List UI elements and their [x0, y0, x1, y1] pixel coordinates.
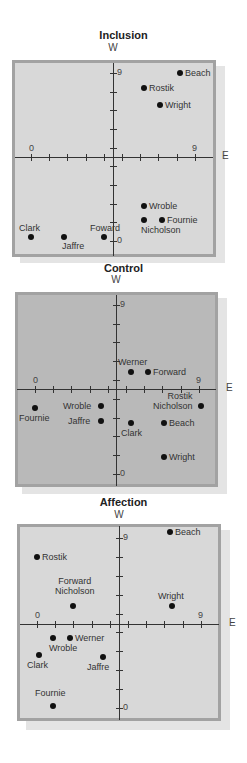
x-tick: [104, 154, 105, 161]
data-point-label: Beach: [185, 68, 211, 78]
x-tick: [183, 621, 184, 628]
y-tick: [110, 110, 117, 111]
x-tick: [126, 386, 127, 393]
data-point: [28, 234, 34, 240]
y-tick: [116, 557, 123, 558]
data-point-label: Jaffre: [62, 241, 84, 251]
data-point: [141, 217, 147, 223]
axis-label-w-control: W: [106, 274, 126, 285]
data-point-label: Forward: [153, 367, 186, 377]
data-point-label: Werner: [75, 633, 104, 643]
x-tick: [199, 386, 200, 393]
y-tick-label-0: 0: [120, 468, 125, 478]
y-tick: [113, 436, 120, 437]
x-tick: [144, 386, 145, 393]
y-tick: [116, 595, 123, 596]
x-tick: [73, 621, 74, 628]
data-point-label: Wright: [165, 100, 191, 110]
data-point-label: Clark: [121, 428, 142, 438]
x-tick: [31, 154, 32, 161]
x-tick: [108, 386, 109, 393]
x-tick: [146, 621, 147, 628]
y-tick: [110, 185, 117, 186]
y-tick: [110, 129, 117, 130]
y-tick: [116, 708, 123, 709]
data-point: [34, 554, 40, 560]
y-tick: [110, 92, 117, 93]
data-point: [50, 635, 56, 641]
data-point-label: Werner: [118, 357, 147, 367]
data-point-label: Jaffre: [68, 416, 90, 426]
x-tick: [164, 621, 165, 628]
x-tick: [49, 154, 50, 161]
data-point: [32, 405, 38, 411]
data-point-label: ForwardNicholson: [55, 576, 95, 596]
data-point: [61, 234, 67, 240]
y-tick: [116, 614, 123, 615]
y-tick: [110, 241, 117, 242]
x-tick: [122, 154, 123, 161]
y-tick: [113, 324, 120, 325]
data-point-label: Foward: [90, 223, 120, 233]
x-tick: [35, 386, 36, 393]
y-tick: [116, 651, 123, 652]
data-point: [98, 418, 104, 424]
chart-title-inclusion: Inclusion: [0, 29, 247, 41]
y-tick: [116, 538, 123, 539]
y-tick: [110, 166, 117, 167]
x-tick: [55, 621, 56, 628]
x-axis: [15, 157, 213, 158]
x-tick-label-0: 0: [33, 375, 38, 385]
data-point-label: Clark: [19, 223, 40, 233]
x-tick: [53, 386, 54, 393]
y-tick: [110, 73, 117, 74]
chart-title-control: Control: [0, 262, 247, 274]
x-tick-label-0: 0: [35, 610, 40, 620]
x-tick: [128, 621, 129, 628]
x-tick-label-9: 9: [192, 143, 197, 153]
data-point: [161, 420, 167, 426]
data-point: [128, 420, 134, 426]
data-point: [169, 603, 175, 609]
x-tick: [71, 386, 72, 393]
data-point-label: Fournie: [19, 413, 50, 423]
y-tick: [116, 576, 123, 577]
data-point-label: Rostik: [149, 83, 174, 93]
data-point: [70, 603, 76, 609]
y-tick-label-9: 9: [123, 532, 128, 542]
y-tick: [113, 399, 120, 400]
y-tick: [113, 305, 120, 306]
data-point: [159, 217, 165, 223]
axis-label-w-inclusion: W: [103, 42, 123, 53]
data-point: [141, 85, 147, 91]
data-point-label-line: Forward: [55, 576, 95, 586]
data-point-label-line: Nicholson: [55, 586, 95, 596]
y-tick: [116, 689, 123, 690]
data-point-label: RostikNicholson: [153, 391, 193, 411]
data-point: [145, 369, 151, 375]
data-point-label: Rostik: [42, 552, 67, 562]
data-point: [50, 703, 56, 709]
x-tick-label-9: 9: [196, 375, 201, 385]
data-point-label: Wroble: [49, 643, 77, 653]
data-point: [141, 203, 147, 209]
data-point-label: Nicholson: [141, 225, 181, 235]
x-tick: [158, 154, 159, 161]
y-tick: [113, 380, 120, 381]
y-axis: [119, 526, 120, 720]
data-point-label: Beach: [175, 527, 201, 537]
data-point: [36, 652, 42, 658]
x-tick-label-9: 9: [198, 610, 203, 620]
y-tick: [116, 632, 123, 633]
y-tick: [116, 670, 123, 671]
y-tick: [113, 455, 120, 456]
data-point-label-line: Nicholson: [153, 401, 193, 411]
y-tick: [113, 418, 120, 419]
y-tick: [110, 204, 117, 205]
x-tick: [110, 621, 111, 628]
data-point: [157, 102, 163, 108]
data-point: [100, 654, 106, 660]
data-point-label: Clark: [27, 660, 48, 670]
data-point-label: Wroble: [63, 401, 91, 411]
data-point: [161, 454, 167, 460]
